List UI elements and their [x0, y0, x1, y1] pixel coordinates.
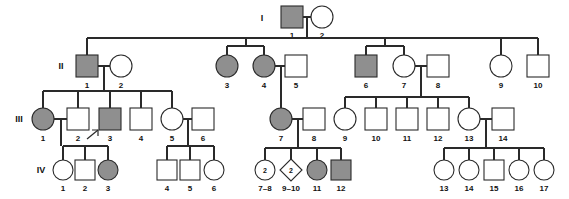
individual-IV-13-label: 13 [440, 184, 449, 193]
generation-label-IV: IV [37, 165, 46, 175]
individual-III-5-label: 5 [170, 134, 175, 143]
individual-III-6-square[interactable] [192, 108, 214, 130]
individual-III-10-square[interactable] [365, 108, 387, 130]
individual-II-8-square[interactable] [427, 55, 449, 77]
sibship-gen-IV [63, 146, 544, 160]
individual-II-8-label: 8 [436, 81, 441, 90]
individual-III-2-square[interactable] [67, 108, 89, 130]
individual-IV-4-square[interactable] [157, 160, 177, 180]
individual-IV-17-label: 17 [540, 184, 549, 193]
individual-III-8-square[interactable] [303, 108, 325, 130]
individual-IV-14-circle[interactable] [459, 160, 479, 180]
individual-III-9-circle[interactable] [334, 108, 356, 130]
individual-IV-9-10-label: 9–10 [282, 184, 300, 193]
individual-III-3-label: 3 [108, 134, 113, 143]
individual-II-2-label: 2 [119, 81, 124, 90]
individual-III-5-circle[interactable] [161, 108, 183, 130]
individual-IV-2-square[interactable] [75, 160, 95, 180]
individual-I-2-label: 2 [320, 31, 325, 40]
individual-II-3-circle[interactable] [216, 55, 238, 77]
individual-IV-7-8-count: 2 [263, 167, 267, 174]
individual-IV-5-label: 5 [188, 184, 193, 193]
individual-II-1-label: 1 [85, 81, 90, 90]
individual-IV-13-circle[interactable] [434, 160, 454, 180]
individual-II-7-label: 7 [402, 81, 407, 90]
individual-IV-15-square[interactable] [484, 160, 504, 180]
individual-IV-15-label: 15 [490, 184, 499, 193]
individual-II-6-square[interactable] [355, 55, 377, 77]
individual-II-9-circle[interactable] [490, 55, 512, 77]
individual-IV-4-label: 4 [165, 184, 170, 193]
generation-II-group: II 1 2 3 4 5 6 7 8 [58, 55, 549, 108]
generation-label-I: I [261, 13, 264, 23]
generation-IV-group: IV 1 2 3 4 5 6 2 7–8 2 9–10 11 12 [37, 159, 554, 193]
sibship-gen-III [43, 91, 469, 108]
individual-II-1-square[interactable] [76, 55, 98, 77]
individual-III-14-square[interactable] [492, 108, 514, 130]
individual-III-7-circle[interactable] [270, 108, 292, 130]
sibship-gen-II [87, 38, 538, 55]
individual-I-2-circle[interactable] [311, 6, 333, 28]
individual-III-13-label: 13 [465, 134, 474, 143]
generation-III-group: III 1 2 3 4 5 6 [15, 108, 514, 148]
individual-IV-6-label: 6 [212, 184, 217, 193]
individual-IV-1-circle[interactable] [53, 160, 73, 180]
individual-IV-6-circle[interactable] [204, 160, 224, 180]
individual-III-11-label: 11 [403, 134, 412, 143]
individual-III-12-label: 12 [434, 134, 443, 143]
individual-III-7-label: 7 [279, 134, 284, 143]
individual-II-10-square[interactable] [527, 55, 549, 77]
individual-II-6-label: 6 [364, 81, 369, 90]
generation-I-group: I 1 2 [261, 6, 333, 40]
individual-IV-5-square[interactable] [180, 160, 200, 180]
pedigree-figure: I 1 2 I [0, 0, 569, 199]
individual-IV-7-8-label: 7–8 [258, 184, 272, 193]
individual-II-3-label: 3 [225, 81, 230, 90]
individual-IV-16-label: 16 [515, 184, 524, 193]
individual-III-9-label: 9 [343, 134, 348, 143]
individual-II-10-label: 10 [534, 81, 543, 90]
individual-III-3-square[interactable] [99, 108, 121, 130]
individual-III-12-square[interactable] [427, 108, 449, 130]
individual-IV-14-label: 14 [465, 184, 474, 193]
proband-arrow-icon [87, 130, 98, 139]
individual-II-2-circle[interactable] [110, 55, 132, 77]
individual-III-2-label: 2 [76, 134, 81, 143]
individual-IV-3-circle[interactable] [98, 160, 118, 180]
individual-I-1-label: 1 [290, 31, 295, 40]
individual-II-5-square[interactable] [285, 55, 307, 77]
individual-II-5-label: 5 [294, 81, 299, 90]
individual-IV-1-label: 1 [61, 184, 66, 193]
individual-IV-11-circle[interactable] [307, 160, 327, 180]
individual-III-10-label: 10 [372, 134, 381, 143]
individual-IV-12-label: 12 [337, 184, 346, 193]
individual-III-1-label: 1 [41, 134, 46, 143]
individual-IV-9-10-count: 2 [289, 167, 293, 174]
individual-II-4-circle[interactable] [253, 55, 275, 77]
individual-III-13-circle[interactable] [458, 108, 480, 130]
individual-III-1-circle[interactable] [32, 108, 54, 130]
individual-II-4-label: 4 [262, 81, 267, 90]
individual-IV-11-label: 11 [313, 184, 322, 193]
individual-II-7-circle[interactable] [393, 55, 415, 77]
individual-IV-2-label: 2 [83, 184, 88, 193]
individual-IV-17-circle[interactable] [534, 160, 554, 180]
individual-III-8-label: 8 [312, 134, 317, 143]
individual-I-1-square[interactable] [281, 6, 303, 28]
generation-label-II: II [58, 61, 63, 71]
individual-II-9-label: 9 [499, 81, 504, 90]
individual-III-14-label: 14 [499, 134, 508, 143]
individual-IV-16-circle[interactable] [509, 160, 529, 180]
generation-label-III: III [15, 114, 23, 124]
pedigree-canvas: I 1 2 I [0, 0, 569, 199]
individual-III-4-square[interactable] [130, 108, 152, 130]
individual-IV-3-label: 3 [106, 184, 111, 193]
individual-III-4-label: 4 [139, 134, 144, 143]
individual-III-6-label: 6 [201, 134, 206, 143]
individual-III-11-square[interactable] [396, 108, 418, 130]
individual-IV-12-square[interactable] [331, 160, 351, 180]
